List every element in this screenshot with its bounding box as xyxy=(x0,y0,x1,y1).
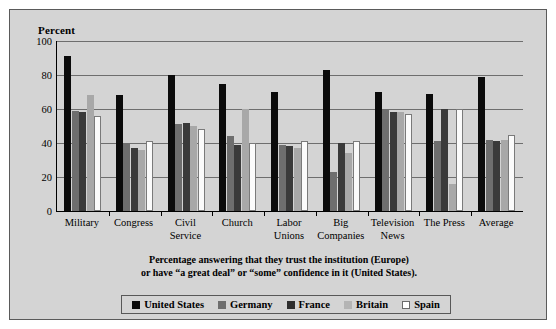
x-tick-mark xyxy=(161,211,162,216)
bar xyxy=(131,148,138,211)
bar xyxy=(323,70,330,211)
y-tick-label-80: 80 xyxy=(42,70,53,81)
bar-group xyxy=(419,41,471,211)
bar-group xyxy=(264,41,316,211)
legend-swatch-icon xyxy=(287,301,295,309)
y-tick-label-0: 0 xyxy=(47,206,52,217)
legend-label: Spain xyxy=(414,299,440,310)
bar xyxy=(405,114,412,211)
bar xyxy=(219,84,226,212)
bar-group xyxy=(368,41,420,211)
bar xyxy=(456,109,463,211)
x-axis-label: Church xyxy=(211,217,263,230)
bar xyxy=(397,112,404,211)
bar xyxy=(123,143,130,211)
bar xyxy=(330,172,337,211)
bar xyxy=(508,135,515,212)
bar xyxy=(72,111,79,211)
bar xyxy=(353,141,360,211)
bar xyxy=(175,124,182,211)
bar xyxy=(279,145,286,211)
bar xyxy=(382,109,389,211)
x-axis-label: Average xyxy=(470,217,522,230)
bar xyxy=(64,56,71,211)
bar-group xyxy=(109,41,161,211)
bar xyxy=(286,146,293,211)
bar xyxy=(146,141,153,211)
legend-item[interactable]: Britain xyxy=(344,299,388,310)
bar xyxy=(183,123,190,211)
bar xyxy=(168,75,175,211)
legend-swatch-icon xyxy=(218,301,226,309)
bar xyxy=(249,143,256,211)
legend-item[interactable]: Spain xyxy=(402,299,440,310)
bar-group xyxy=(471,41,523,211)
bar xyxy=(301,141,308,211)
plot-area: 020406080100 xyxy=(56,41,523,212)
bar xyxy=(87,95,94,211)
bar xyxy=(338,143,345,211)
bar xyxy=(390,112,397,211)
bar xyxy=(294,148,301,211)
bar xyxy=(138,150,145,211)
x-axis-label: Congress xyxy=(108,217,160,230)
legend-label: United States xyxy=(144,299,204,310)
bar xyxy=(478,77,485,211)
caption-line-1: Percentage answering that they trust the… xyxy=(10,253,548,266)
y-tick-label-60: 60 xyxy=(42,104,53,115)
x-axis-label: Military xyxy=(56,217,108,230)
x-axis-label: Labor Unions xyxy=(263,217,315,242)
x-axis-label: Big Companies xyxy=(315,217,367,242)
bar xyxy=(94,116,101,211)
bar-group xyxy=(212,41,264,211)
bar xyxy=(493,141,500,211)
caption-line-2: or have “a great deal” or “some” confide… xyxy=(10,266,548,279)
legend-item[interactable]: France xyxy=(287,299,331,310)
bar xyxy=(227,136,234,211)
legend-item[interactable]: United States xyxy=(132,299,204,310)
bar xyxy=(234,145,241,211)
x-axis-label: Television News xyxy=(367,217,419,242)
bar xyxy=(271,92,278,211)
x-axis-category-labels: MilitaryCongressCivil ServiceChurchLabor… xyxy=(56,217,522,257)
x-tick-mark xyxy=(212,211,213,216)
y-axis-title: Percent xyxy=(38,24,75,36)
plot-wrapper: Percent 020406080100 MilitaryCongressCiv… xyxy=(10,10,548,321)
chart-legend: United StatesGermanyFranceBritainSpain xyxy=(121,295,451,314)
legend-label: France xyxy=(299,299,331,310)
y-tick-label-40: 40 xyxy=(42,138,53,149)
bar xyxy=(242,109,249,211)
legend-swatch-icon xyxy=(132,301,140,309)
legend-label: Britain xyxy=(356,299,388,310)
bar-group xyxy=(161,41,213,211)
chart-caption: Percentage answering that they trust the… xyxy=(10,253,548,279)
bar xyxy=(449,184,456,211)
bar xyxy=(501,140,508,211)
bar xyxy=(345,153,352,211)
bar xyxy=(116,95,123,211)
bar xyxy=(426,94,433,211)
y-tick-label-100: 100 xyxy=(36,36,52,47)
bars-layer xyxy=(57,41,523,211)
legend-item[interactable]: Germany xyxy=(218,299,273,310)
figure-frame: Percent 020406080100 MilitaryCongressCiv… xyxy=(9,9,547,320)
bar xyxy=(441,109,448,211)
bar xyxy=(190,126,197,211)
y-tick-label-20: 20 xyxy=(42,172,53,183)
x-axis-label: Civil Service xyxy=(160,217,212,242)
x-tick-mark xyxy=(471,211,472,216)
legend-swatch-icon xyxy=(402,301,410,309)
bar xyxy=(79,112,86,211)
x-axis-label: The Press xyxy=(418,217,470,230)
x-tick-mark xyxy=(109,211,110,216)
bar xyxy=(375,92,382,211)
bar-group xyxy=(57,41,109,211)
bar xyxy=(198,129,205,211)
legend-label: Germany xyxy=(230,299,273,310)
chart-page: Percent 020406080100 MilitaryCongressCiv… xyxy=(0,0,556,329)
bar-group xyxy=(316,41,368,211)
x-tick-mark xyxy=(316,211,317,216)
legend-swatch-icon xyxy=(344,301,352,309)
x-tick-mark xyxy=(419,211,420,216)
bar xyxy=(434,141,441,211)
